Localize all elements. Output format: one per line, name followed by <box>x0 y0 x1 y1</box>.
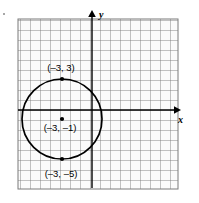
y-axis-label: y <box>98 9 104 20</box>
scan-artifact-speck <box>3 13 5 15</box>
center-point-label: (–3, –1) <box>44 122 77 133</box>
center-point-marker <box>60 117 64 121</box>
x-axis-label: x <box>177 114 183 125</box>
top-point-label: (–3, 3) <box>47 62 74 73</box>
coordinate-plane-figure: (–3, 3) (–3, –1) (–3, –5) y x <box>0 0 199 203</box>
y-axis-arrowhead-icon <box>88 10 96 17</box>
bottom-point-marker <box>60 157 64 161</box>
grid-paper <box>18 19 178 189</box>
top-point-marker <box>60 77 64 81</box>
bottom-point-label: (–3, –5) <box>45 168 78 179</box>
